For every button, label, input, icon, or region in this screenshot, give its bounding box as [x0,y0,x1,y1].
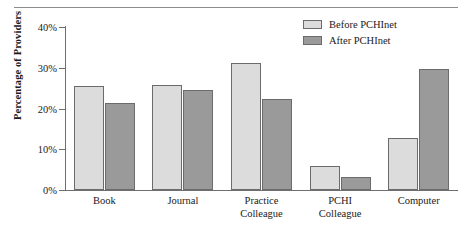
x-axis-tick-label: Computer [359,194,470,207]
bar-group: PracticeColleague [222,27,301,190]
y-axis-tick-label: 30% [38,62,57,73]
bar-group: Journal [144,27,223,190]
bar-after [262,99,292,190]
bar-chart-figure: Percentage of Providers Before PCHInet A… [0,0,470,243]
bar-before [310,166,340,190]
y-axis-tick-label: 20% [38,103,57,114]
bar-after [341,177,371,190]
y-axis-title: Percentage of Providers [12,0,23,146]
bar-after [105,103,135,190]
y-axis-tick-label: 10% [38,144,57,155]
x-axis-tick-label-line: Colleague [280,207,400,220]
bar-before [388,138,418,190]
bar-group: Computer [379,27,458,190]
top-divider-rule [14,7,458,8]
bar-before [74,86,104,190]
bar-after [183,90,213,190]
x-axis-tick-label-line: Computer [359,194,470,207]
bar-group: Book [65,27,144,190]
plot-area: 0%10%20%30%40% BookJournalPracticeCollea… [65,27,458,190]
y-axis-tick-label: 40% [38,22,57,33]
bar-group: PCHIColleague [301,27,380,190]
y-axis-tick-mark [59,190,65,191]
bar-before [152,85,182,190]
x-axis-line [64,190,458,191]
bar-after [419,69,449,190]
bar-before [231,63,261,190]
